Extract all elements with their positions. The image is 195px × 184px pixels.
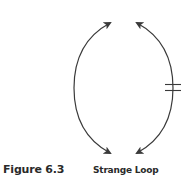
right-arc [137,23,173,153]
left-arc [74,23,110,153]
strange-loop-diagram [0,0,195,184]
figure-canvas: Figure 6.3 Strange Loop [0,0,195,184]
figure-number-label: Figure 6.3 [3,163,64,176]
figure-caption: Strange Loop [93,165,159,175]
